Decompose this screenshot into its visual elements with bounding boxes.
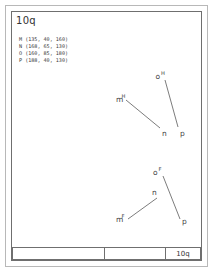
title-block-cell-middle (105, 248, 166, 259)
coordinate-list: M (135, 40, 160) N (168, 65, 130) O (160… (19, 36, 68, 64)
diagram-upper: m H o H n p (110, 66, 198, 138)
title-block-cell-left (13, 248, 105, 259)
title-block: 10q (12, 247, 201, 260)
vertex-superscript-o-upper: H (161, 70, 165, 76)
edge-o-p-upper (165, 80, 178, 127)
page-title: 10q (16, 15, 36, 26)
vertex-superscript-m-lower: F (122, 213, 125, 219)
vertex-label-n-upper: n (162, 129, 167, 138)
vertex-label-n-lower: n (152, 188, 157, 197)
vertex-label-o-lower: o (153, 168, 158, 177)
coordinate-row-o: O (160, 85, 180) (19, 50, 68, 57)
coordinate-row-m: M (135, 40, 160) (19, 36, 68, 43)
title-block-right-text: 10q (176, 250, 189, 258)
diagram-lower: m F o F n p (110, 164, 198, 232)
edge-m-n-lower (128, 198, 157, 219)
coordinate-row-n: N (168, 65, 130) (19, 43, 68, 50)
vertex-superscript-o-lower: F (159, 166, 162, 172)
vertex-label-p-lower: p (182, 217, 187, 226)
vertex-label-o-upper: o (156, 72, 161, 81)
edge-o-p-lower (163, 176, 180, 219)
coordinate-row-p: P (188, 40, 130) (19, 57, 68, 64)
edge-m-n-upper (126, 100, 160, 128)
vertex-superscript-m-upper: H (122, 93, 126, 99)
drawing-sheet: 10q M (135, 40, 160) N (168, 65, 130) O … (0, 0, 214, 273)
vertex-label-p-upper: p (180, 129, 185, 138)
title-block-cell-right: 10q (166, 248, 200, 259)
